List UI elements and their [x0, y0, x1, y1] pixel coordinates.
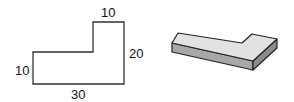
l-shape-outline [33, 22, 124, 84]
label-bottom-width: 30 [71, 87, 85, 102]
label-right-height: 20 [129, 46, 143, 61]
isometric-l-block [172, 33, 277, 70]
label-top-width: 10 [101, 5, 115, 20]
label-left-height: 10 [15, 63, 29, 78]
l-shape-diagram: 10 20 10 30 [0, 0, 294, 102]
